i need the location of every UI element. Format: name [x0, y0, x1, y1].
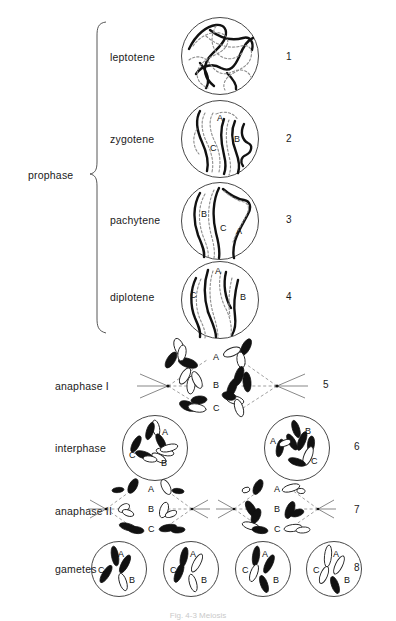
chromatid-b — [117, 572, 129, 591]
cell-anaphase-2: A B C — [88, 478, 336, 534]
chromatid-a-l2 — [126, 477, 141, 495]
row-number-5: 5 — [323, 379, 329, 390]
meiosis-figure: prophase leptotene 1 zygotene 2 A B C pa — [0, 0, 396, 621]
chromatid-b — [187, 573, 199, 592]
chromatid-c-l2 — [128, 525, 145, 534]
chrom-label-c: C — [129, 450, 136, 460]
stage-label-leptotene: leptotene — [110, 51, 155, 63]
cell-anaphase-1: A B C — [135, 338, 310, 416]
chrom-label-a: A — [217, 113, 223, 123]
chromatid-c — [323, 545, 332, 568]
cell-gamete-1: A B C — [90, 540, 148, 598]
chrom-label-c-right: C — [274, 524, 281, 534]
chrom-label-c: C — [98, 565, 105, 575]
cell-pachytene: B C A — [180, 181, 260, 261]
chrom-label-b: B — [201, 575, 207, 585]
chrom-label-b: B — [161, 458, 167, 468]
stage-label-diplotene: diplotene — [110, 291, 154, 303]
chromatid-a-r6 — [297, 488, 306, 494]
chromatid-c — [251, 546, 261, 567]
prophase-brace — [88, 20, 110, 336]
chrom-label-a-left: A — [148, 484, 154, 494]
chromosome-b-left — [177, 366, 204, 394]
chromatid-a-r3 — [241, 486, 250, 494]
row-number-6: 6 — [354, 441, 360, 452]
chromatid-b — [329, 575, 342, 594]
chromosome-a-left — [163, 337, 199, 370]
chromatid-b-l2 — [121, 508, 134, 518]
stage-label-anaphase-1: anaphase I — [55, 380, 109, 392]
group-label-prophase: prophase — [28, 169, 73, 181]
chrom-label-b-left: B — [148, 504, 154, 514]
chrom-label-b: B — [305, 426, 311, 436]
cell-interphase-left: A B C — [121, 414, 189, 482]
chromatid-a-r1 — [159, 478, 174, 496]
row-number-1: 1 — [286, 51, 292, 62]
chromosome-c: C — [129, 434, 158, 463]
cell-gamete-3: A B C — [234, 540, 292, 598]
chromatid-c2 — [248, 563, 261, 582]
chrom-label-c: C — [313, 565, 320, 575]
chrom-label-b: B — [213, 380, 219, 390]
chrom-label-a-right: A — [274, 484, 280, 494]
chrom-label-a: A — [162, 427, 168, 437]
chromatid-a-r2 — [172, 488, 184, 494]
cell-gamete-4: A B C — [305, 540, 363, 598]
chromosome-c-right — [221, 390, 245, 417]
spindle-right-inner — [292, 490, 336, 527]
chrom-label-a: A — [215, 266, 221, 276]
chrom-label-b: B — [240, 292, 246, 302]
chrom-label-c: C — [170, 565, 177, 575]
chrom-label-c: C — [220, 223, 227, 233]
chrom-label-c: C — [190, 290, 197, 300]
row-number-2: 2 — [286, 133, 292, 144]
cell-gamete-2: A B C — [162, 540, 220, 598]
chrom-label-c: C — [311, 456, 318, 466]
chromosome-a: A — [270, 436, 292, 458]
chrom-label-c: C — [242, 565, 249, 575]
spindle-left-inner — [166, 490, 210, 527]
figure-caption: Fig. 4-3 Meiosis — [0, 611, 396, 620]
stage-label-zygotene: zygotene — [110, 133, 154, 145]
chrom-label-b: B — [344, 575, 350, 585]
chrom-label-b: B — [201, 209, 207, 219]
chrom-label-b: B — [129, 575, 135, 585]
chrom-label-b-right: B — [274, 504, 280, 514]
chromosome-b: B — [150, 442, 178, 468]
chrom-label-a: A — [118, 549, 124, 559]
cell-leptotene — [180, 16, 260, 96]
row-number-4: 4 — [286, 291, 292, 302]
chrom-label-b: B — [273, 575, 279, 585]
cell-interphase-right: B A C — [263, 414, 331, 482]
stage-label-pachytene: pachytene — [110, 214, 160, 226]
chromosome-a-right — [222, 337, 254, 368]
cell-diplotene: C A B — [180, 260, 260, 340]
chrom-label-a: A — [213, 352, 219, 362]
chrom-label-a: A — [190, 549, 196, 559]
chrom-label-a: A — [270, 436, 276, 446]
chrom-label-a: A — [236, 226, 242, 236]
chromatid-c-r4 — [252, 525, 269, 534]
cell-zygotene: A B C — [180, 99, 260, 179]
chrom-label-a: A — [333, 549, 339, 559]
chromosome-c-left — [178, 395, 207, 413]
chrom-label-c: C — [213, 403, 220, 413]
chromatid-b — [258, 574, 271, 593]
chrom-label-c: C — [210, 143, 217, 153]
row-number-3: 3 — [286, 214, 292, 225]
chromatid-a-r4 — [251, 478, 265, 496]
chromatid-a-l1 — [112, 487, 124, 493]
stage-label-interphase: interphase — [55, 442, 106, 454]
row-number-7: 7 — [354, 504, 360, 515]
chrom-label-c-left: C — [148, 524, 155, 534]
chrom-label-b: B — [234, 134, 240, 144]
chrom-label-a: A — [262, 549, 268, 559]
chromosome-b: B — [284, 419, 311, 451]
